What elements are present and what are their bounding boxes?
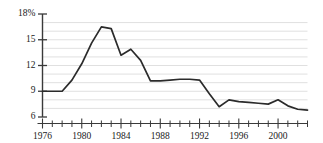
- chart-canvas: [0, 0, 323, 143]
- x-tick-label: 1996: [219, 132, 259, 142]
- y-tick-label: 9: [31, 86, 36, 96]
- x-tick-label: 1984: [101, 132, 141, 142]
- y-tick-label: 6: [31, 112, 36, 122]
- x-tick-label: 1988: [140, 132, 180, 142]
- x-tick-label: 2000: [258, 132, 298, 142]
- line-chart: 18%151296 1976198019841988199219962000: [0, 0, 323, 143]
- y-tick-label: 12: [26, 61, 36, 71]
- x-tick-label: 1976: [23, 132, 63, 142]
- gridlines: [43, 23, 308, 109]
- y-tick-label: 15: [26, 35, 36, 45]
- x-tick-label: 1980: [62, 132, 102, 142]
- x-tick-label: 1992: [180, 132, 220, 142]
- y-tick-label: 18%: [18, 9, 35, 19]
